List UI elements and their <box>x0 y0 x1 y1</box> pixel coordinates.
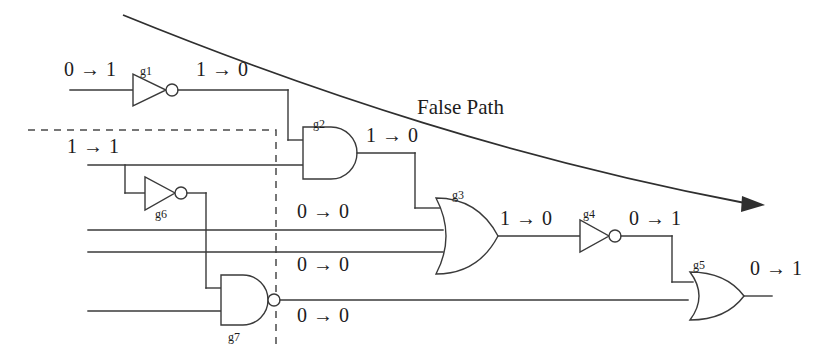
label-g1-input: 0 → 1 <box>64 58 117 81</box>
gate-label-g2: g2 <box>313 117 325 132</box>
false-path-circuit-figure: 0 → 1 1 → 0 1 → 1 1 → 0 0 → 0 0 → 0 1 → … <box>0 0 829 360</box>
g3-input-wires <box>88 208 443 252</box>
gate-g7 <box>88 275 688 325</box>
gate-g6 <box>125 165 221 288</box>
label-g3-output: 1 → 0 <box>500 207 553 230</box>
gate-label-g7: g7 <box>228 330 240 345</box>
label-g7-output: 0 → 0 <box>297 304 350 327</box>
label-g2-lower-input: 1 → 1 <box>67 135 120 158</box>
label-g3-input-mid1: 0 → 0 <box>297 200 350 223</box>
gate-label-g4: g4 <box>583 207 595 222</box>
gate-label-g5: g5 <box>693 258 705 273</box>
label-g4-output: 0 → 1 <box>629 207 682 230</box>
gate-label-g3: g3 <box>452 188 464 203</box>
label-g1-output: 1 → 0 <box>196 58 249 81</box>
label-g2-output: 1 → 0 <box>366 124 419 147</box>
label-g5-output: 0 → 1 <box>750 257 803 280</box>
gate-label-g1: g1 <box>140 64 152 79</box>
false-path-label: False Path <box>417 95 504 120</box>
gate-label-g6: g6 <box>155 207 167 222</box>
label-g3-input-mid2: 0 → 0 <box>297 253 350 276</box>
circuit-schematic <box>0 0 829 360</box>
